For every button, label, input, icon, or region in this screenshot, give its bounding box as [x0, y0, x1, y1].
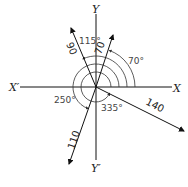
angle-label-250: 250°	[54, 95, 76, 105]
x-axis-label: X	[172, 82, 182, 95]
angle-label-335: 335°	[101, 103, 123, 113]
magnitude-label-140: 140	[144, 96, 166, 114]
y-axis-label: Y	[92, 3, 101, 16]
angle-label-70: 70°	[128, 56, 144, 66]
x-neg-axis-label: X′	[8, 81, 20, 94]
y-neg-axis-label: Y′	[91, 162, 101, 175]
magnitude-label-70: 70	[92, 40, 106, 56]
magnitude-label-110: 110	[65, 129, 81, 151]
vector-diagram: Y Y′ X′ X 115° 70° 250° 335° 90 70 110 1…	[0, 0, 188, 187]
